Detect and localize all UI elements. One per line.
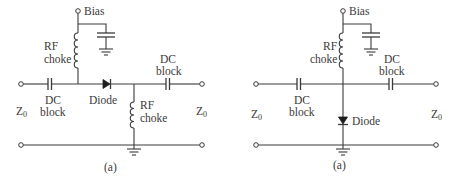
port-right-terminal — [434, 82, 439, 87]
rf-choke-inductor — [339, 33, 343, 68]
bias-label: Bias — [349, 5, 370, 17]
caption-shunt: (a) — [333, 159, 346, 172]
dc-block-left-label-2: block — [289, 106, 315, 118]
diode-label: Diode — [89, 94, 117, 106]
port-left-ground-terminal — [19, 143, 24, 148]
z0-left-label: Z0 — [16, 105, 27, 119]
ground-icon — [336, 145, 350, 155]
svg-text:Z0: Z0 — [251, 108, 262, 122]
port-left-terminal — [254, 82, 259, 87]
bias-bypass-capacitor — [343, 24, 380, 55]
ground-icon — [99, 49, 113, 55]
shunt-diode-circuit: Bias RF choke DC block — [251, 5, 442, 172]
bias-label: Bias — [84, 5, 105, 17]
dc-block-right-label-2: block — [379, 65, 405, 77]
rf-choke-label-1: RF — [323, 40, 337, 52]
port-right-ground-terminal — [200, 143, 205, 148]
dc-block-right-label-1: DC — [384, 53, 400, 65]
port-left-ground-terminal — [254, 143, 259, 148]
port-right-terminal — [200, 82, 205, 87]
dc-block-right-capacitor — [166, 78, 170, 90]
dc-block-left-label-1: DC — [294, 94, 310, 106]
port-left-terminal — [19, 82, 24, 87]
rf-choke-top-label-2: choke — [44, 53, 71, 65]
ground-icon — [364, 49, 378, 55]
diode-label: Diode — [352, 115, 380, 127]
diode-series-icon — [103, 79, 111, 89]
rf-choke-bottom-inductor — [130, 102, 134, 128]
dc-block-left-label-1: DC — [45, 94, 61, 106]
rf-choke-top-label-1: RF — [44, 40, 58, 52]
circuit-diagram: Bias RF choke DC block — [0, 0, 456, 181]
dc-block-left-capacitor — [48, 78, 52, 90]
rf-choke-bottom-label-2: choke — [140, 112, 167, 124]
circuit-figure: Bias RF choke DC block — [0, 0, 456, 181]
z0-left-label: Z0 — [251, 108, 262, 122]
dc-block-right-label-1: DC — [160, 53, 176, 65]
svg-text:Z0: Z0 — [431, 108, 442, 122]
bias-terminal — [341, 9, 346, 14]
ground-icon — [127, 145, 141, 155]
diode-shunt-icon — [338, 117, 348, 125]
dc-block-right-capacitor — [389, 78, 393, 90]
dc-block-left-label-2: block — [40, 106, 66, 118]
bias-bypass-capacitor — [78, 24, 115, 55]
caption-series: (a) — [104, 161, 117, 174]
dc-block-left-capacitor — [297, 78, 301, 90]
rf-choke-top-inductor — [74, 33, 78, 68]
z0-right-label: Z0 — [196, 105, 207, 119]
bias-terminal — [76, 9, 81, 14]
dc-block-right-label-2: block — [156, 65, 182, 77]
svg-text:Z0: Z0 — [196, 105, 207, 119]
z0-right-label: Z0 — [431, 108, 442, 122]
port-right-ground-terminal — [434, 143, 439, 148]
svg-text:Z0: Z0 — [16, 105, 27, 119]
rf-choke-bottom-label-1: RF — [140, 99, 154, 111]
rf-choke-label-2: choke — [310, 53, 337, 65]
series-diode-circuit: Bias RF choke DC block — [16, 5, 207, 174]
